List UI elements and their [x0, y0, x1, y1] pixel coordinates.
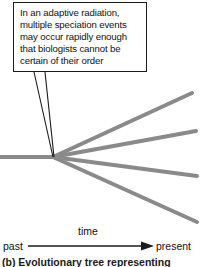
adaptive-radiation-figure: In an adaptive radiation, multiple speci…: [0, 0, 200, 267]
axis-label-time: time: [78, 225, 98, 237]
figure-caption: (b) Evolutionary tree representing: [2, 256, 171, 267]
axis-label-past: past: [3, 240, 23, 252]
branch-2-upper-shallow: [53, 131, 196, 157]
time-axis-arrowhead: [141, 242, 154, 251]
annotation-callout-box: In an adaptive radiation, multiple speci…: [13, 2, 147, 72]
leader-line-right: [45, 72, 54, 157]
annotation-callout-text: In an adaptive radiation, multiple speci…: [20, 7, 142, 67]
axis-label-present: present: [156, 240, 191, 252]
branch-1-upper-steep: [53, 93, 192, 157]
leader-line-left: [34, 72, 53, 157]
